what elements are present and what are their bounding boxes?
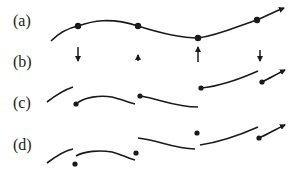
row-b-arrows — [78, 47, 260, 62]
row-a-curve — [51, 8, 284, 41]
row-c-segments — [47, 70, 285, 107]
row-d-points — [72, 130, 261, 166]
row-d-segments — [47, 125, 285, 163]
diagram-canvas — [0, 0, 299, 172]
